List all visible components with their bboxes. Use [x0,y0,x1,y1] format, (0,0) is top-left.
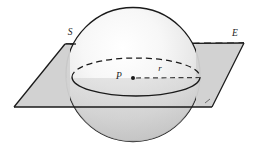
center-point-P-dot [131,76,135,80]
label-center-P: P [115,71,122,81]
label-plane-E: E [231,28,238,38]
label-radius-r: r [158,63,162,73]
sphere-plane-diagram: S E P r [0,0,254,150]
geometry-figure: S E P r [0,0,254,150]
sphere-S-shape [60,8,210,151]
label-sphere-S: S [68,27,73,37]
